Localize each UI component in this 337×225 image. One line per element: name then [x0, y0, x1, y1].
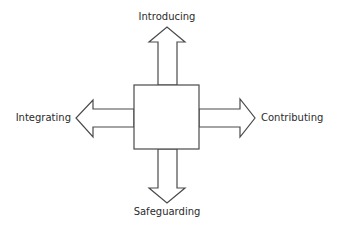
label-contributing: Contributing [261, 112, 323, 124]
label-introducing: Introducing [139, 11, 196, 23]
arrow-up-introducing [149, 27, 185, 85]
arrow-left-integrating [76, 100, 134, 137]
center-box [134, 85, 199, 149]
arrow-right-contributing [199, 99, 255, 137]
label-safeguarding: Safeguarding [134, 206, 201, 218]
label-integrating: Integrating [16, 112, 71, 124]
arrow-down-safeguarding [149, 149, 185, 203]
